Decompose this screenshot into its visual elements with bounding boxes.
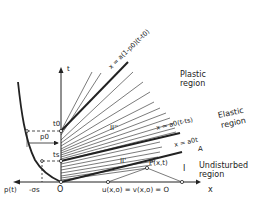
a-point-label: A	[198, 146, 203, 153]
p-characteristic-2	[147, 168, 182, 182]
pressure-curve	[18, 82, 61, 182]
region-ii-double-prime-label: II''	[110, 125, 118, 132]
origin-label: O	[57, 186, 63, 194]
p-characteristic-1	[108, 168, 147, 182]
boundary-condition-label: u(x,o) = v(x,o) = O	[102, 187, 169, 194]
p0-label: p0	[40, 134, 49, 141]
x-axis-point	[106, 180, 109, 183]
t-axis-label: t	[67, 66, 70, 73]
a-point	[180, 180, 183, 183]
curve-point-t0	[26, 130, 29, 133]
origin-point	[59, 180, 62, 183]
undisturbed-region-label-1: Undisturbed	[199, 162, 248, 170]
t0-label: t0	[53, 121, 60, 128]
plastic-region-label-2: region	[180, 80, 205, 88]
p-axis-label: p(t)	[4, 187, 17, 194]
x-axis-arrow-right	[196, 180, 201, 185]
plastic-front-line	[61, 62, 128, 131]
region-i-label: I	[183, 165, 185, 173]
characteristics-diagram	[0, 0, 264, 211]
t-axis-arrow	[59, 67, 64, 73]
t0-point	[59, 129, 62, 132]
x-axis-label: x	[208, 186, 213, 194]
region-ii-prime-label: II'	[120, 158, 126, 165]
sigma-s-label: -σs	[29, 187, 40, 194]
ts-label: ts	[53, 152, 59, 159]
curve-point-ts	[41, 160, 44, 163]
p-point-label: P(x,t)	[149, 160, 168, 167]
undisturbed-region-label-2: region	[199, 171, 224, 179]
x-axis-arrow-left	[13, 180, 20, 185]
plastic-region-label-1: Plastic	[180, 71, 206, 79]
ts-point	[59, 159, 62, 162]
